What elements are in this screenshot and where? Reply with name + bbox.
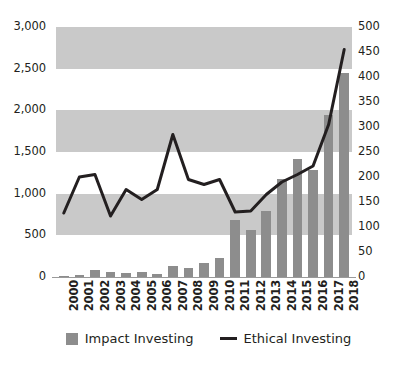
right-axis-tick: 400 <box>358 71 380 83</box>
category-label-2008: 2008 <box>193 280 205 311</box>
left-axis-tick: 500 <box>24 229 46 241</box>
left-axis-tick: 1,000 <box>14 188 46 200</box>
category-label-2002: 2002 <box>100 280 112 311</box>
category-label-2012: 2012 <box>256 280 268 311</box>
category-label-2004: 2004 <box>131 280 143 311</box>
category-label-2006: 2006 <box>162 280 174 311</box>
chart-legend: Impact Investing Ethical Investing <box>0 332 417 345</box>
dual-axis-chart: 05001,0001,5002,0002,5003,000 0501001502… <box>0 0 417 368</box>
legend-label-ethical-investing: Ethical Investing <box>244 332 352 345</box>
right-axis-tick: 200 <box>358 171 380 183</box>
left-axis-tick: 0 <box>39 271 46 283</box>
category-label-2005: 2005 <box>147 280 159 311</box>
legend-item-ethical-investing: Ethical Investing <box>220 332 352 345</box>
line-series-ethical-investing <box>56 27 352 277</box>
left-axis-tick: 2,500 <box>14 63 46 75</box>
category-label-2000: 2000 <box>69 280 81 311</box>
legend-square-icon <box>66 333 78 345</box>
category-label-2009: 2009 <box>209 280 221 311</box>
right-axis-tick: 50 <box>358 246 372 258</box>
category-label-2016: 2016 <box>318 280 330 311</box>
category-label-2017: 2017 <box>334 280 346 311</box>
right-value-axis: 050100150200250300350400450500 <box>358 0 410 368</box>
legend-item-impact-investing: Impact Investing <box>66 332 194 345</box>
right-axis-tick: 250 <box>358 146 380 158</box>
legend-label-impact-investing: Impact Investing <box>85 332 194 345</box>
category-label-2015: 2015 <box>302 280 314 311</box>
left-axis-tick: 2,000 <box>14 104 46 116</box>
category-label-2001: 2001 <box>84 280 96 311</box>
plot-area <box>56 27 352 277</box>
right-axis-tick: 500 <box>358 21 380 33</box>
category-label-2013: 2013 <box>271 280 283 311</box>
right-axis-tick: 450 <box>358 46 380 58</box>
right-axis-tick: 300 <box>358 121 380 133</box>
right-axis-tick: 350 <box>358 96 380 108</box>
left-value-axis: 05001,0001,5002,0002,5003,000 <box>0 0 52 368</box>
category-label-2010: 2010 <box>225 280 237 311</box>
legend-line-icon <box>220 337 237 340</box>
category-label-2007: 2007 <box>178 280 190 311</box>
x-axis-baseline <box>52 277 356 278</box>
category-label-2003: 2003 <box>116 280 128 311</box>
right-axis-tick: 150 <box>358 196 380 208</box>
category-label-2011: 2011 <box>240 280 252 311</box>
category-label-2014: 2014 <box>287 280 299 311</box>
category-label-2018: 2018 <box>349 280 361 311</box>
left-axis-tick: 3,000 <box>14 21 46 33</box>
right-axis-tick: 100 <box>358 221 380 233</box>
category-axis: 2000200120022003200420052006200720082009… <box>56 280 352 326</box>
left-axis-tick: 1,500 <box>14 146 46 158</box>
